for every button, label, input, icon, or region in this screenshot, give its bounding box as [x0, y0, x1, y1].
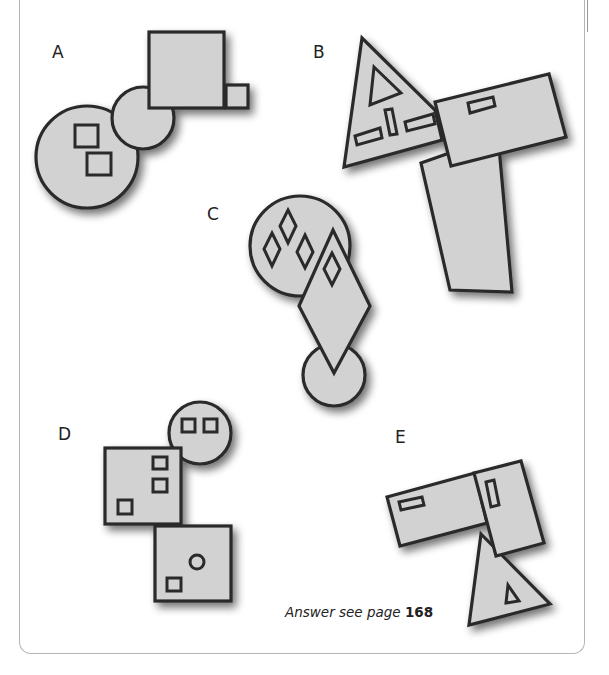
shape-puzzle-figure: A B C [0, 0, 609, 675]
figure-label-b: B [313, 42, 325, 62]
figure-e: E [387, 427, 550, 625]
figure-label-e: E [395, 427, 406, 447]
figure-label-c: C [207, 204, 219, 224]
figure-d: D [58, 402, 231, 601]
answer-caption: Answer see page 168 [285, 604, 433, 620]
figure-label-d: D [58, 424, 71, 444]
upper-square-shape [105, 448, 181, 524]
caption-prefix: Answer see page [285, 604, 405, 620]
triangle-shape [344, 38, 442, 167]
figure-a: A [36, 32, 248, 208]
figure-c: C [207, 196, 370, 406]
caption-page-number: 168 [405, 604, 433, 620]
figure-label-a: A [52, 42, 64, 62]
large-square-shape [149, 32, 224, 108]
wide-rectangle-shape [435, 74, 566, 166]
small-square-shape [226, 85, 248, 108]
